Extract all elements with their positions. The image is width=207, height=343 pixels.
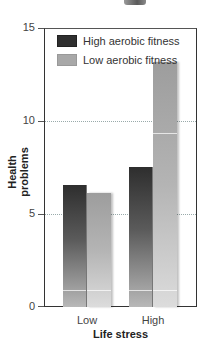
legend-label: Low aerobic fitness bbox=[83, 54, 177, 66]
bar-low-stress-low-fitness bbox=[87, 193, 111, 307]
legend: High aerobic fitness Low aerobic fitness bbox=[57, 31, 180, 69]
y-tick-label: 15 bbox=[5, 21, 35, 33]
y-axis-title: Health problems bbox=[6, 132, 30, 212]
legend-item-low-fitness: Low aerobic fitness bbox=[57, 50, 180, 69]
legend-label: High aerobic fitness bbox=[83, 35, 180, 47]
decorative-graphic bbox=[124, 0, 146, 5]
bar-high-stress-low-fitness bbox=[153, 62, 177, 307]
legend-swatch-light bbox=[57, 54, 77, 66]
y-tick-10 bbox=[38, 121, 44, 122]
x-tick-label-high: High bbox=[133, 314, 173, 326]
x-axis-title: Life stress bbox=[44, 328, 197, 340]
bar-high-stress-high-fitness bbox=[129, 167, 153, 307]
y-tick-label: 0 bbox=[5, 300, 35, 312]
bar-low-stress-high-fitness bbox=[63, 185, 87, 307]
x-tick-label-low: Low bbox=[67, 314, 107, 326]
y-tick-5 bbox=[38, 214, 44, 215]
legend-item-high-fitness: High aerobic fitness bbox=[57, 31, 180, 50]
y-tick-15 bbox=[38, 28, 44, 29]
y-tick-label: 10 bbox=[5, 114, 35, 126]
legend-swatch-dark bbox=[57, 35, 77, 47]
y-tick-0 bbox=[38, 306, 44, 307]
